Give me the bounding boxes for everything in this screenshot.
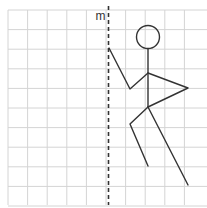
stick-figure-right-arm [148, 73, 188, 107]
square-grid [8, 10, 207, 206]
stick-figure-head [137, 26, 160, 49]
stick-figure-right-leg [148, 107, 188, 185]
reflection-diagram: m [0, 0, 207, 208]
mirror-line-label: m [96, 9, 106, 23]
